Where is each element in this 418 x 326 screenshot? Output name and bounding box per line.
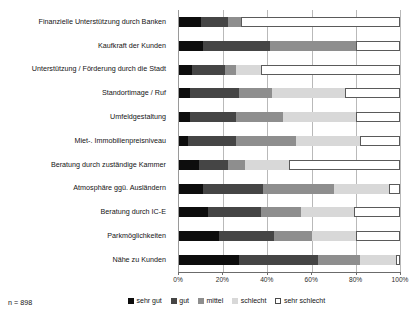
bar-slot [179, 153, 400, 177]
bar-finanzielle-unterstuetzung-durch-banken[interactable] [179, 17, 400, 27]
bar-segment-gut[interactable] [190, 88, 239, 98]
x-tick-label-0: 0% [173, 276, 183, 283]
bar-segment-sehr-gut[interactable] [179, 184, 203, 194]
bar-segment-schlecht[interactable] [296, 136, 360, 146]
bar-kaufkraft-der-kunden[interactable] [179, 41, 400, 51]
bar-segment-gut[interactable] [201, 17, 228, 27]
bar-segment-sehr-schlecht[interactable] [345, 88, 400, 98]
chart-footer: n = 898 sehr gutgutmittelschlechtsehr sc… [0, 295, 418, 315]
bar-segment-sehr-gut[interactable] [179, 160, 199, 170]
bar-segment-mittel[interactable] [228, 17, 241, 27]
x-tick-label-80: 80% [349, 276, 362, 283]
bar-beratung-durch-ic-e[interactable] [179, 207, 400, 217]
legend-item-gut[interactable]: gut [171, 297, 189, 304]
bar-segment-gut[interactable] [203, 41, 269, 51]
bar-beratung-durch-zustaendige-kammer[interactable] [179, 160, 400, 170]
bar-segment-sehr-schlecht[interactable] [356, 112, 400, 122]
category-label-parkmoeglichkeiten: Parkmöglichkeiten [0, 224, 172, 248]
bar-segment-sehr-schlecht[interactable] [360, 136, 400, 146]
bar-slot [179, 224, 400, 248]
bars-container [179, 10, 400, 272]
bar-parkmoeglichkeiten[interactable] [179, 231, 400, 241]
legend-swatch-icon-mittel [198, 298, 204, 304]
bar-segment-schlecht[interactable] [236, 65, 260, 75]
bar-miet-immobilienpreisniveau[interactable] [179, 136, 400, 146]
bar-segment-sehr-gut[interactable] [179, 17, 201, 27]
bar-segment-sehr-gut[interactable] [179, 255, 239, 265]
x-tick-label-100: 100% [392, 276, 409, 283]
x-tick-label-60: 60% [305, 276, 318, 283]
bar-segment-mittel[interactable] [270, 41, 356, 51]
bar-standortimage-ruf[interactable] [179, 88, 400, 98]
bar-slot [179, 10, 400, 34]
bar-segment-mittel[interactable] [274, 231, 312, 241]
bar-segment-gut[interactable] [239, 255, 319, 265]
category-axis-labels: Finanzielle Unterstützung durch BankenKa… [0, 10, 172, 272]
bar-slot [179, 248, 400, 272]
bar-slot [179, 177, 400, 201]
bar-segment-sehr-schlecht[interactable] [261, 65, 400, 75]
bar-unterstuetzung-foerderung-durch-die-stadt[interactable] [179, 65, 400, 75]
legend-swatch-icon-schlecht [232, 298, 238, 304]
bar-segment-sehr-schlecht[interactable] [354, 207, 400, 217]
bar-segment-gut[interactable] [188, 136, 237, 146]
category-label-atmosphaere-ggue-auslaendern: Atmosphäre ggü. Ausländern [0, 177, 172, 201]
bar-segment-sehr-gut[interactable] [179, 88, 190, 98]
bar-segment-mittel[interactable] [239, 88, 272, 98]
legend-item-sehr-schlecht[interactable]: sehr schlecht [275, 297, 325, 304]
bar-segment-sehr-schlecht[interactable] [356, 41, 400, 51]
x-axis-ticks: 0%20%40%60%80%100% [178, 272, 400, 286]
bar-slot [179, 201, 400, 225]
category-label-unterstuetzung-foerderung-durch-die-stadt: Unterstützung / Förderung durch die Stad… [0, 58, 172, 82]
bar-segment-gut[interactable] [208, 207, 261, 217]
bar-segment-schlecht[interactable] [334, 184, 389, 194]
bar-segment-mittel[interactable] [263, 184, 334, 194]
bar-segment-gut[interactable] [190, 112, 236, 122]
bar-slot [179, 129, 400, 153]
bar-segment-mittel[interactable] [236, 112, 282, 122]
bar-segment-sehr-gut[interactable] [179, 41, 203, 51]
category-label-kaufkraft-der-kunden: Kaufkraft der Kunden [0, 34, 172, 58]
legend-swatch-icon-sehr-gut [128, 298, 134, 304]
bar-segment-gut[interactable] [203, 184, 263, 194]
bar-segment-schlecht[interactable] [360, 255, 395, 265]
legend-item-schlecht[interactable]: schlecht [232, 297, 266, 304]
bar-segment-schlecht[interactable] [245, 160, 289, 170]
bar-segment-sehr-schlecht[interactable] [289, 160, 400, 170]
bar-umfeldgestaltung[interactable] [179, 112, 400, 122]
x-tick-mark-20 [222, 272, 223, 275]
bar-segment-mittel[interactable] [318, 255, 360, 265]
bar-segment-schlecht[interactable] [283, 112, 356, 122]
bar-segment-gut[interactable] [199, 160, 228, 170]
bar-segment-sehr-schlecht[interactable] [241, 17, 400, 27]
bar-naehe-zu-kunden[interactable] [179, 255, 400, 265]
bar-segment-gut[interactable] [219, 231, 274, 241]
x-tick-mark-100 [400, 272, 401, 275]
bar-segment-sehr-gut[interactable] [179, 231, 219, 241]
bar-segment-sehr-gut[interactable] [179, 112, 190, 122]
x-tick-label-40: 40% [260, 276, 273, 283]
bar-segment-schlecht[interactable] [301, 207, 354, 217]
bar-atmosphaere-ggue-auslaendern[interactable] [179, 184, 400, 194]
category-label-beratung-durch-zustaendige-kammer: Beratung durch zuständige Kammer [0, 153, 172, 177]
bar-segment-sehr-gut[interactable] [179, 136, 188, 146]
category-label-standortimage-ruf: Standortimage / Ruf [0, 81, 172, 105]
bar-segment-gut[interactable] [192, 65, 225, 75]
bar-segment-schlecht[interactable] [272, 88, 345, 98]
bar-segment-mittel[interactable] [228, 160, 246, 170]
x-tick-mark-60 [311, 272, 312, 275]
bar-segment-sehr-schlecht[interactable] [356, 231, 400, 241]
bar-segment-schlecht[interactable] [312, 231, 356, 241]
legend-item-mittel[interactable]: mittel [198, 297, 223, 304]
bar-segment-mittel[interactable] [225, 65, 236, 75]
gridline-100 [400, 10, 401, 272]
bar-segment-sehr-gut[interactable] [179, 207, 208, 217]
legend-label: sehr gut [137, 297, 162, 304]
bar-segment-sehr-schlecht[interactable] [396, 255, 400, 265]
bar-segment-mittel[interactable] [236, 136, 296, 146]
legend-item-sehr-gut[interactable]: sehr gut [128, 297, 162, 304]
bar-segment-mittel[interactable] [261, 207, 301, 217]
bar-segment-sehr-schlecht[interactable] [389, 184, 400, 194]
category-label-miet-immobilienpreisniveau: Miet-. Immobilienpreisniveau [0, 129, 172, 153]
bar-segment-sehr-gut[interactable] [179, 65, 192, 75]
